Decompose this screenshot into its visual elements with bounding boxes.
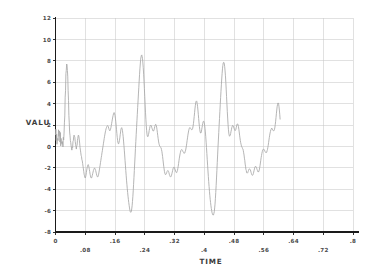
x-tick-label: .08 <box>80 247 91 253</box>
x-axis-label: TIME <box>199 257 222 266</box>
x-tick-label: 0 <box>53 238 57 244</box>
y-tick-label: -8 <box>44 229 51 235</box>
x-tick-label: .32 <box>169 238 180 244</box>
x-tick-label: .8 <box>350 238 356 244</box>
value-vs-time-line-chart: -8-6-4-2024681012 0.08.16.24.32.4.48.56.… <box>0 0 369 273</box>
y-tick-label: -2 <box>44 165 51 171</box>
x-tick-label: .4 <box>201 247 207 253</box>
y-tick-label: 4 <box>47 101 51 107</box>
x-tick-label: .24 <box>139 247 150 253</box>
x-tick-label: .16 <box>110 238 121 244</box>
y-tick-label: 6 <box>47 79 51 85</box>
y-tick-label: -4 <box>44 186 51 192</box>
y-tick-label: 10 <box>43 37 51 43</box>
y-tick-label: 12 <box>43 15 51 21</box>
x-tick-label: .56 <box>258 247 269 253</box>
x-tick-label: .64 <box>288 238 299 244</box>
x-tick-label: .72 <box>318 247 329 253</box>
x-tick-label: .48 <box>229 238 240 244</box>
y-axis-label: VALU <box>26 118 50 127</box>
y-tick-label: 8 <box>47 58 51 64</box>
y-tick-label: 0 <box>47 144 51 150</box>
y-tick-label: -6 <box>44 208 51 214</box>
chart-figure: -8-6-4-2024681012 0.08.16.24.32.4.48.56.… <box>0 0 369 273</box>
